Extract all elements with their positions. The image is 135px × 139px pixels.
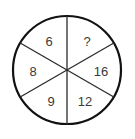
sector-label-bottom-left: 9 [47,94,54,109]
circle-puzzle-figure: 6 ? 16 12 9 8 [0,0,135,139]
sector-label-top-right: ? [83,34,90,49]
circle-puzzle-svg: 6 ? 16 12 9 8 [0,0,135,139]
sector-label-top-left: 6 [45,34,52,49]
sector-label-bottom-right: 12 [78,94,92,109]
sector-label-right: 16 [94,64,108,79]
sector-label-left: 8 [29,64,36,79]
